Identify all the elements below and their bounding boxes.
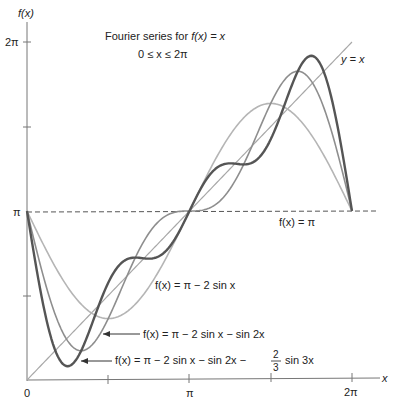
annotation-series-3-frac-num: 2: [273, 349, 279, 360]
arrow-icon: [81, 358, 112, 364]
y-axis-label: f(x): [18, 7, 34, 19]
annotation-series-3: f(x) = π − 2 sin x − sin 2x −: [115, 354, 246, 366]
annotation-f-pi: f(x) = π: [279, 216, 315, 228]
x-tick-label-0: 0: [24, 387, 30, 399]
annotation-series-2: f(x) = π − 2 sin x − sin 2x: [143, 328, 265, 340]
annotation-series-1: f(x) = π − 2 sin x: [155, 279, 236, 291]
x-axis-label: x: [381, 372, 388, 384]
x-axis: [27, 378, 380, 380]
arrow-icon: [103, 331, 140, 337]
annotation-series-3-frac-den: 3: [273, 362, 279, 373]
chart-title: Fourier series for f(x) = x: [105, 30, 226, 42]
annotation-y-equals-x: y = x: [340, 53, 365, 65]
chart-subtitle: 0 ≤ x ≤ 2π: [138, 48, 188, 60]
x-tick-label-2pi: 2π: [344, 386, 358, 398]
reference-line-f-pi: [27, 211, 379, 212]
x-tick-label-pi: π: [186, 387, 194, 399]
y-tick-label-pi: π: [13, 206, 21, 218]
fourier-series-chart: f(x) x 0 π 2π 2π π Fourier series for f(…: [0, 0, 398, 409]
annotation-series-3-tail: sin 3x: [285, 354, 314, 366]
y-tick-label-2pi: 2π: [5, 36, 19, 48]
